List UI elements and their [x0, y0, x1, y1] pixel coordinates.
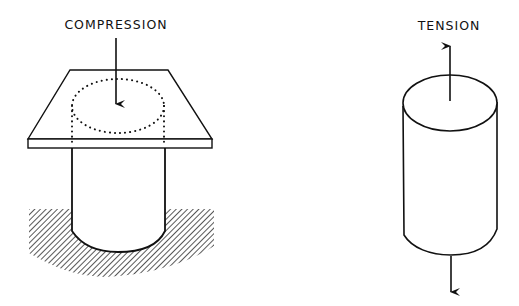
tension-figure: TENSION — [403, 18, 497, 292]
diagram-svg: COMPRESSION TENSION — [0, 0, 519, 306]
compression-cylinder — [72, 148, 165, 252]
compression-label: COMPRESSION — [64, 17, 167, 32]
tension-label: TENSION — [417, 18, 481, 33]
diagram-canvas: COMPRESSION TENSION — [0, 0, 519, 306]
load-plate-top — [28, 70, 212, 139]
load-plate-edge — [28, 139, 212, 148]
compression-figure: COMPRESSION — [28, 17, 214, 277]
